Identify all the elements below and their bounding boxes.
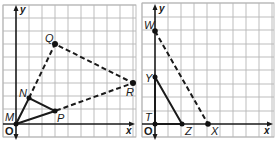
right-y-axis-arrow-icon [153,4,158,10]
left-graph: y x O M N P Q R [3,4,136,140]
right-y-axis-label: y [158,3,165,14]
left-grid-border [3,5,136,137]
dilation-diagrams: y x O M N P Q R [0,0,278,144]
label-X: X [210,125,219,137]
right-image-segment-dashed [155,31,208,124]
right-grid [142,3,274,137]
label-R: R [126,86,134,98]
right-x-axis-label: x [263,125,270,136]
point-Y [153,75,158,80]
label-M: M [5,111,15,123]
label-N: N [19,87,27,99]
point-M [14,122,19,127]
point-T [153,122,158,127]
left-grid [3,5,136,137]
point-X [205,121,211,127]
left-origin-label: O [5,125,14,137]
label-Q: Q [45,32,54,44]
label-Z: Z [184,125,193,137]
left-y-axis-label: y [19,4,26,15]
point-Z [180,122,185,127]
label-P: P [57,112,65,124]
left-preimage-triangle [16,98,55,124]
point-N [27,96,32,101]
left-x-axis-label: x [125,125,132,136]
label-T: T [145,111,153,123]
left-y-axis-arrow-icon [14,5,19,11]
label-Y: Y [145,72,153,84]
right-origin-label: O [144,125,153,137]
label-W: W [144,19,156,31]
right-graph: y x O T Y Z W X [142,3,274,140]
